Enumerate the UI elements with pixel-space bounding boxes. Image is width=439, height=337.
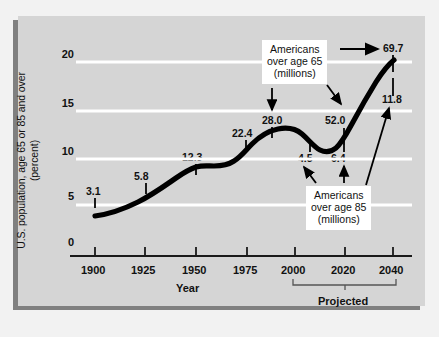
chart-plot-area — [0, 0, 439, 337]
annotation-box-age-65: Americans over age 65 (millions) — [262, 40, 327, 84]
chart-figure: U.S. population, age 65 or 85 and over (… — [0, 0, 439, 337]
gridlines — [76, 62, 412, 205]
annotation-age85-line3: (millions) — [311, 213, 366, 225]
annotation-age65-line2: over age 65 — [267, 55, 322, 67]
x-axis-ticks — [95, 247, 393, 256]
annotation-age85-line1: Americans — [311, 189, 366, 201]
annotation-box-age-85: Americans over age 85 (millions) — [306, 186, 371, 230]
annotation-age65-line3: (millions) — [267, 67, 322, 79]
annotation-age85-line2: over age 85 — [311, 201, 366, 213]
annotation-age65-line1: Americans — [267, 43, 322, 55]
projected-bracket — [293, 279, 396, 290]
